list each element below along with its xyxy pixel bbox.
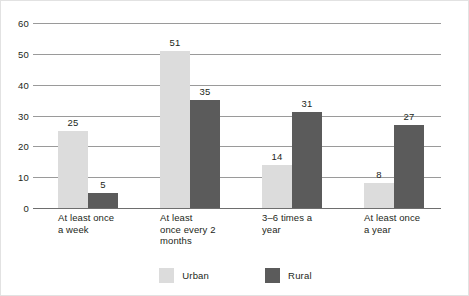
category-label-line: At least [160,212,236,224]
legend-item-rural[interactable]: Rural [265,268,312,283]
y-axis-tick-label: 20 [0,141,29,152]
x-axis-category-labels: At least oncea weekAt leastonce every 2m… [33,212,441,260]
y-axis-tick-label: 60 [0,18,29,29]
bar-group: 5135 [160,23,220,208]
bar-value-label: 31 [290,98,324,109]
x-axis-category-label: At leastonce every 2months [160,212,236,247]
x-axis-category-label: 3–6 times ayear [262,212,338,235]
y-axis-tick-label: 40 [0,79,29,90]
bar-group: 255 [58,23,118,208]
bar-value-label: 25 [56,117,90,128]
bar-rural: 5 [88,193,118,208]
y-axis-tick-label: 30 [0,110,29,121]
legend-label: Urban [182,270,209,281]
bar-rural: 31 [292,112,322,208]
chart-legend: UrbanRural [1,265,469,285]
bar-urban: 25 [58,131,88,208]
category-label-line: 3–6 times a [262,212,338,224]
rural-swatch [265,268,280,283]
urban-swatch [159,268,174,283]
bar-value-label: 51 [158,37,192,48]
gridline [33,208,441,209]
bar-value-label: 35 [188,86,222,97]
category-label-line: a year [364,224,440,236]
y-axis: 6050403020100 [1,23,29,208]
bar-rural: 27 [394,125,424,208]
category-label-line: a week [58,224,134,236]
legend-item-urban[interactable]: Urban [159,268,209,283]
bar-value-label: 5 [86,179,120,190]
bar-group: 827 [364,23,424,208]
bar-group: 1431 [262,23,322,208]
x-axis-category-label: At least oncea week [58,212,134,235]
category-label-line: year [262,224,338,236]
bar-value-label: 14 [260,151,294,162]
bar-urban: 51 [160,51,190,208]
y-axis-tick-label: 10 [0,172,29,183]
bars-layer: 25551351431827 [33,23,441,208]
category-label-line: once every 2 [160,224,236,236]
legend-label: Rural [288,270,312,281]
y-axis-tick-label: 50 [0,48,29,59]
x-axis-category-label: At least oncea year [364,212,440,235]
bar-value-label: 8 [362,169,396,180]
y-axis-tick-label: 0 [0,203,29,214]
bar-urban: 14 [262,165,292,208]
bar-value-label: 27 [392,111,426,122]
category-label-line: months [160,235,236,247]
category-label-line: At least once [58,212,134,224]
bar-chart: 6050403020100 25551351431827 At least on… [0,0,469,296]
bar-urban: 8 [364,183,394,208]
bar-rural: 35 [190,100,220,208]
category-label-line: At least once [364,212,440,224]
